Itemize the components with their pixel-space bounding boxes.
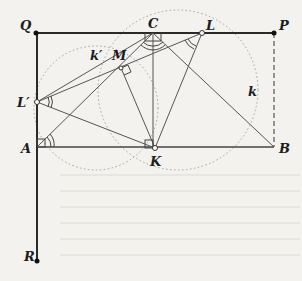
label-B: B [278,141,290,156]
label-L-prime: L′ [16,95,30,110]
point-R [35,259,40,264]
point-P [272,31,277,36]
label-R: R [23,249,35,264]
point-M [119,66,123,70]
label-k: k [248,84,257,99]
label-M: M [111,48,127,63]
geometry-figure: Q C L P k′ M k L′ A K B R [0,0,302,281]
label-P: P [278,18,290,33]
point-K [153,146,158,151]
label-C: C [148,16,159,31]
point-L-prime [35,100,40,105]
label-K: K [149,154,162,169]
label-Q: Q [20,18,32,33]
point-L [200,31,205,36]
diagram-canvas: Q C L P k′ M k L′ A K B R [0,0,302,281]
point-Q [34,31,39,36]
label-A: A [19,141,31,156]
label-L: L [205,18,215,33]
label-k-prime: k′ [90,48,103,63]
